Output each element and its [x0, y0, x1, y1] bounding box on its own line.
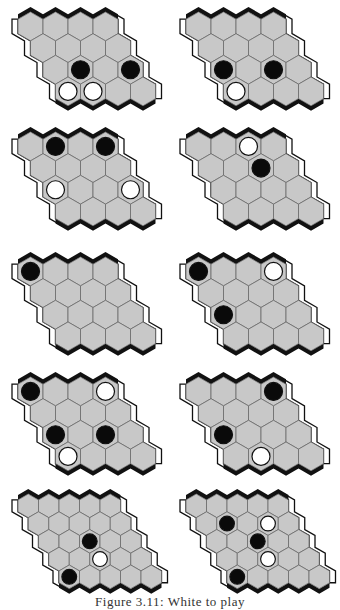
black-stone	[215, 61, 233, 79]
hex-board-2	[178, 4, 338, 114]
black-stone	[82, 534, 97, 549]
black-stone	[72, 61, 90, 79]
white-stone	[252, 447, 270, 465]
hex-board-10	[178, 486, 340, 597]
black-stone	[220, 516, 235, 531]
black-stone	[47, 137, 65, 155]
hex-board-5	[10, 249, 170, 359]
figure-caption: Figure 3.11: White to play	[0, 594, 340, 610]
black-stone	[47, 426, 65, 444]
white-stone	[265, 262, 283, 280]
black-stone	[250, 534, 265, 549]
black-stone	[265, 382, 283, 400]
black-stone	[190, 262, 208, 280]
white-stone	[97, 382, 115, 400]
black-stone	[252, 159, 270, 177]
white-stone	[59, 82, 77, 100]
white-stone	[240, 137, 258, 155]
black-stone	[215, 306, 233, 324]
black-stone	[97, 137, 115, 155]
hex-board-6	[178, 249, 338, 359]
white-stone	[84, 82, 102, 100]
black-stone	[230, 569, 245, 584]
black-stone	[215, 426, 233, 444]
black-stone	[97, 426, 115, 444]
white-stone	[122, 181, 140, 199]
hex-board-3	[10, 124, 170, 234]
white-stone	[93, 552, 108, 567]
black-stone	[22, 382, 40, 400]
hex-board-9	[10, 486, 176, 597]
white-stone	[47, 181, 65, 199]
hex-board-8	[178, 369, 338, 479]
black-stone	[122, 61, 140, 79]
white-stone	[261, 516, 276, 531]
white-stone	[59, 447, 77, 465]
black-stone	[62, 569, 77, 584]
hex-board-4	[178, 124, 338, 234]
black-stone	[22, 262, 40, 280]
hex-board-1	[10, 4, 170, 114]
white-stone	[261, 552, 276, 567]
white-stone	[227, 82, 245, 100]
hex-board-7	[10, 369, 170, 479]
black-stone	[265, 61, 283, 79]
